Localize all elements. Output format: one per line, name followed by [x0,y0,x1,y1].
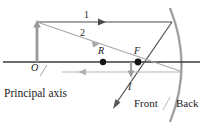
ray-2-reflected-arrowhead [78,69,86,75]
ray-1-reflected [115,22,172,105]
focal-point-label: F [134,46,140,56]
center-of-curvature-label: R [98,46,104,56]
point-F-marker [135,59,142,66]
point-R-marker [100,59,106,65]
principal-axis-label: Principal axis [4,88,67,100]
ray-2-label: 2 [80,28,85,38]
ray-diagram-figure: 1 2 O R F I Principal axis Front Back [0,0,208,130]
front-back-divider-leader [163,97,170,110]
ray-2-incident [37,22,183,72]
principal-axis-leader-line [40,65,47,76]
vertex-origin-label: O [31,63,38,73]
front-label: Front [134,98,158,109]
ray-1-reflected-arrowhead [113,99,121,109]
image-label: I [128,82,131,92]
back-label: Back [176,98,199,109]
ray-1-label: 1 [84,10,89,20]
image-arrow-head [128,71,135,79]
ray-1-direction-arrowhead [98,19,106,26]
object-arrow-head [33,20,41,28]
